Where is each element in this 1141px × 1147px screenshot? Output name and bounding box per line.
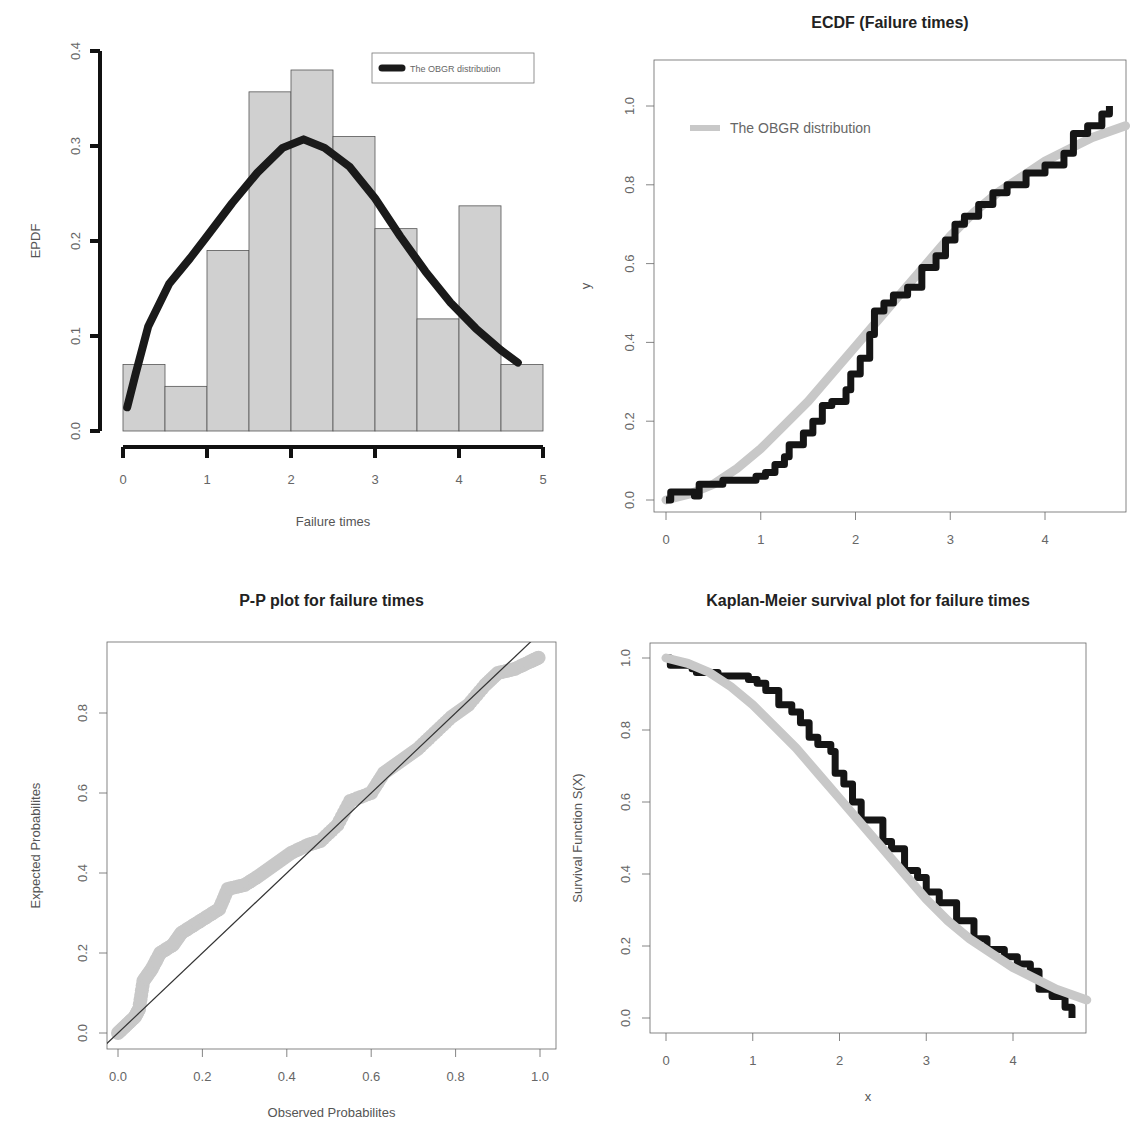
y-tick-label: 0.0 [618, 1009, 633, 1027]
ecdf-chart: 012340.00.20.40.60.81.0yECDF (Failure ti… [570, 0, 1141, 570]
histogram-panel: 0.00.10.20.30.4012345Failure timesEPDFTh… [0, 0, 570, 560]
reference-diagonal-line [105, 621, 552, 1045]
x-tick-label: 0 [119, 472, 126, 487]
y-tick-label: 1.0 [618, 649, 633, 667]
empirical-cdf-step [666, 106, 1109, 500]
y-tick-label: 0.6 [622, 255, 637, 273]
kaplan-meier-panel: 012340.00.20.40.60.81.0xSurvival Functio… [570, 570, 1141, 1147]
x-tick-label: 0.8 [447, 1069, 465, 1084]
legend: The OBGR distribution [372, 53, 534, 83]
y-axis-label: Expected Probabilites [28, 782, 43, 908]
x-tick-label: 2 [836, 1053, 843, 1068]
histogram-bar [207, 251, 249, 432]
plot-area [107, 642, 556, 1049]
y-tick-label: 0.0 [622, 491, 637, 509]
x-axis-label: Failure times [296, 514, 371, 529]
y-tick-label: 0.4 [622, 333, 637, 351]
legend-label: The OBGR distribution [730, 120, 871, 136]
y-tick-label: 0.2 [622, 412, 637, 430]
legend-label: The OBGR distribution [410, 64, 501, 74]
y-tick-label: 0.4 [75, 864, 90, 882]
histogram-bar [375, 229, 417, 431]
y-tick-label: 1.0 [622, 97, 637, 115]
y-tick-label: 0.8 [75, 704, 90, 722]
y-tick-label: 0.2 [618, 937, 633, 955]
x-tick-label: 0.2 [193, 1069, 211, 1084]
x-tick-label: 3 [923, 1053, 930, 1068]
ecdf-panel: 012340.00.20.40.60.81.0yECDF (Failure ti… [570, 0, 1141, 570]
x-tick-label: 2 [852, 532, 859, 547]
histogram-bar [165, 386, 207, 431]
x-tick-label: 3 [371, 472, 378, 487]
plot-area [654, 60, 1126, 512]
x-tick-label: 4 [1041, 532, 1048, 547]
x-tick-label: 5 [539, 472, 546, 487]
x-tick-label: 0.0 [109, 1069, 127, 1084]
histogram-bars [123, 70, 543, 431]
chart-title: P-P plot for failure times [239, 592, 424, 609]
x-tick-label: 1 [749, 1053, 756, 1068]
histogram-bar [291, 70, 333, 431]
x-tick-label: 0 [662, 532, 669, 547]
histogram-bar [249, 92, 291, 431]
x-axis-label: Observed Probabilites [268, 1105, 396, 1120]
x-tick-label: 1 [757, 532, 764, 547]
pp-point [532, 651, 546, 665]
x-tick-label: 1 [203, 472, 210, 487]
y-tick-label: 0.1 [68, 327, 83, 345]
histogram-bar [333, 137, 375, 432]
chart-title: Kaplan-Meier survival plot for failure t… [706, 592, 1030, 609]
x-tick-label: 3 [947, 532, 954, 547]
x-tick-label: 0.6 [362, 1069, 380, 1084]
x-axis-label: x [865, 1089, 872, 1104]
histogram-bar [501, 365, 543, 432]
y-axis-label: y [578, 282, 593, 289]
y-tick-label: 0.8 [618, 721, 633, 739]
y-tick-label: 0.6 [75, 784, 90, 802]
y-tick-label: 0.0 [75, 1024, 90, 1042]
y-axis-label: EPDF [28, 224, 43, 259]
y-tick-label: 0.4 [68, 42, 83, 60]
x-tick-label: 4 [455, 472, 462, 487]
x-tick-label: 4 [1009, 1053, 1016, 1068]
pp-plot-panel: 0.00.20.40.60.81.00.00.20.40.60.8Observe… [0, 570, 570, 1147]
y-tick-label: 0.3 [68, 137, 83, 155]
y-tick-label: 0.8 [622, 176, 637, 194]
kaplan-meier-chart: 012340.00.20.40.60.81.0xSurvival Functio… [570, 570, 1141, 1147]
x-tick-label: 0 [662, 1053, 669, 1068]
histogram-chart: 0.00.10.20.30.4012345Failure timesEPDFTh… [0, 0, 570, 560]
pp-plot-chart: 0.00.20.40.60.81.00.00.20.40.60.8Observe… [0, 570, 570, 1147]
obgr-cdf-curve [666, 126, 1126, 500]
chart-title: ECDF (Failure times) [811, 14, 968, 31]
histogram-bar [417, 319, 459, 431]
pp-points [111, 651, 546, 1040]
y-tick-label: 0.2 [68, 232, 83, 250]
y-tick-label: 0.4 [618, 865, 633, 883]
x-tick-label: 2 [287, 472, 294, 487]
y-tick-label: 0.6 [618, 793, 633, 811]
obgr-survival-curve [666, 658, 1087, 1000]
y-axis-label: Survival Function S(X) [570, 773, 585, 902]
x-tick-label: 1.0 [531, 1069, 549, 1084]
x-tick-label: 0.4 [278, 1069, 296, 1084]
y-tick-label: 0.0 [68, 422, 83, 440]
y-tick-label: 0.2 [75, 944, 90, 962]
